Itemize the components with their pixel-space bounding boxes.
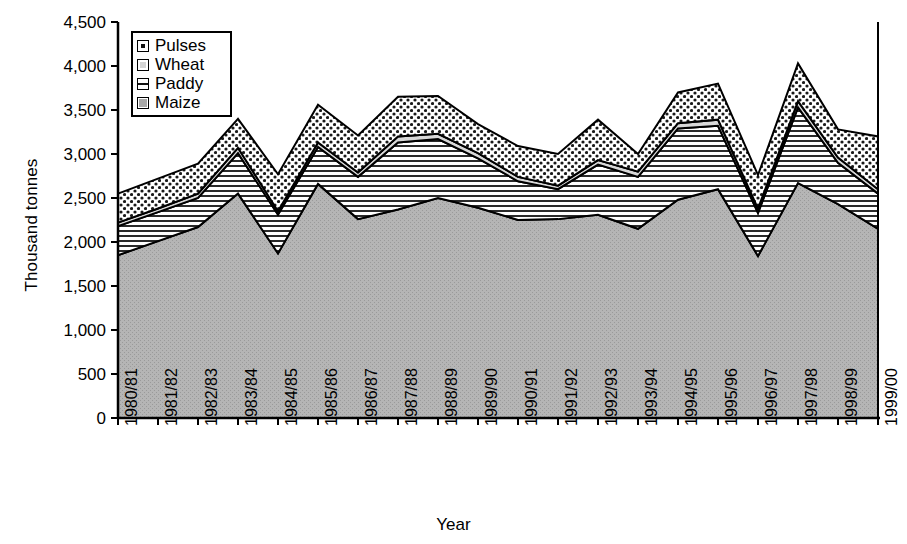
x-tick-label: 1999/00 [884, 368, 900, 426]
x-axis-title: Year [0, 515, 907, 535]
x-tick-label: 1992/93 [604, 368, 620, 426]
legend-item-wheat[interactable]: Wheat [137, 55, 226, 74]
x-tick-label: 1997/98 [804, 368, 820, 426]
x-tick-label: 1986/87 [364, 368, 380, 426]
legend-label: Maize [155, 94, 200, 111]
x-tick-label: 1991/92 [564, 368, 580, 426]
x-tick-label: 1980/81 [124, 368, 140, 426]
x-tick-label: 1982/83 [204, 368, 220, 426]
x-tick-label: 1994/95 [684, 368, 700, 426]
legend-label: Wheat [155, 56, 204, 73]
light-gray-swatch-icon [137, 59, 149, 71]
horizontal-lines-swatch-icon [137, 78, 149, 90]
x-tick-label: 1996/97 [764, 368, 780, 426]
legend-label: Paddy [155, 75, 203, 92]
x-tick-label: 1998/99 [844, 368, 860, 426]
x-tick-label: 1987/88 [404, 368, 420, 426]
legend-label: Pulses [155, 37, 206, 54]
x-tick-label: 1989/90 [484, 368, 500, 426]
x-tick-label: 1988/89 [444, 368, 460, 426]
legend-item-maize[interactable]: Maize [137, 93, 226, 112]
legend-item-paddy[interactable]: Paddy [137, 74, 226, 93]
x-tick-label: 1995/96 [724, 368, 740, 426]
solid-gray-swatch-icon [137, 97, 149, 109]
area-chart: Thousand tonnes 05001,0001,5002,0002,500… [0, 0, 907, 544]
x-tick-label: 1984/85 [284, 368, 300, 426]
dotted-swatch-icon [137, 40, 149, 52]
legend-item-pulses[interactable]: Pulses [137, 36, 226, 55]
x-tick-label: 1990/91 [524, 368, 540, 426]
x-tick-label: 1993/94 [644, 368, 660, 426]
x-tick-label: 1983/84 [244, 368, 260, 426]
x-tick-label: 1985/86 [324, 368, 340, 426]
chart-legend: PulsesWheatPaddyMaize [131, 31, 232, 117]
x-tick-label: 1981/82 [164, 368, 180, 426]
